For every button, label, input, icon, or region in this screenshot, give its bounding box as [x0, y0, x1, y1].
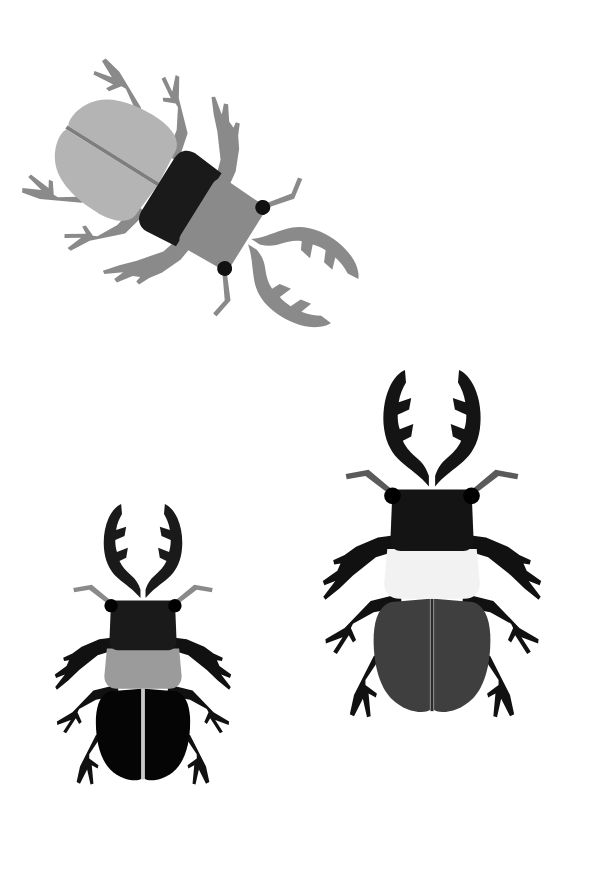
eye-left: [384, 488, 401, 505]
elytra-group-br: [374, 599, 491, 712]
head: [390, 490, 473, 551]
pronotum: [104, 648, 181, 688]
pronotum: [384, 549, 480, 599]
eye-right: [168, 599, 181, 612]
head: [109, 601, 176, 651]
elytral-suture: [142, 689, 145, 780]
eye-right: [463, 488, 480, 505]
eye-left: [104, 599, 117, 612]
elytra-group-bl: [96, 689, 190, 780]
elytral-suture: [430, 599, 433, 711]
illustration-canvas: [0, 0, 589, 884]
beetles-illustration: [0, 0, 589, 884]
